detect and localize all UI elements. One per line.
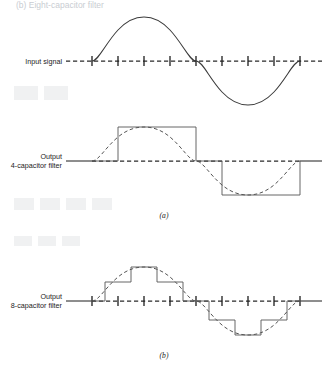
output-4cap-label-output: Output [40, 152, 62, 161]
caption-panel-b: (b) [160, 351, 169, 360]
output-8cap-label-output: Output [40, 292, 62, 301]
output-8cap-label-filter: 8-capacitor filter [11, 301, 63, 310]
switched-capacitor-filter-figure: (b) Eight-capacitor filter Input signal … [0, 0, 329, 373]
panel-output-8-capacitor: Output 8-capacitor filter (b) [11, 267, 322, 360]
caption-panel-a: (a) [160, 211, 169, 220]
output-4cap-label-filter: 4-capacitor filter [11, 161, 63, 170]
page-header-text: (b) Eight-capacitor filter [16, 0, 104, 10]
panel-input-signal: Input signal [25, 17, 322, 105]
input-signal-label: Input signal [25, 57, 62, 66]
